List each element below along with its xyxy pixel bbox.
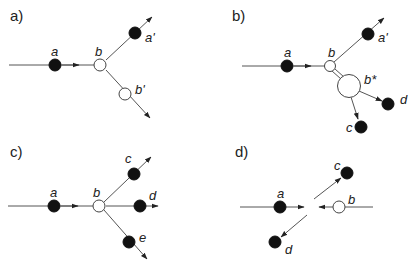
panel-b-label: b) [232, 7, 245, 24]
particle-c [355, 121, 367, 133]
label-b: b [348, 192, 355, 207]
outgoing-track-d [281, 215, 307, 237]
label-a: a [277, 186, 284, 201]
label-a: a [284, 45, 291, 60]
particle-b [333, 201, 345, 213]
panel-d: d) a b c d [235, 143, 373, 257]
label-b: b [328, 45, 335, 60]
label-c: c [346, 120, 353, 135]
label-b-prime: b' [135, 82, 145, 97]
label-b: b [93, 185, 100, 200]
particle-a [274, 201, 286, 213]
particle-a [49, 59, 61, 71]
particle-b-prime [119, 88, 131, 100]
panel-c: c) a b c d e [8, 143, 158, 259]
outgoing-track-a-prime [334, 18, 384, 62]
particle-a-prime [362, 28, 374, 40]
outgoing-track-c [351, 97, 358, 119]
label-c: c [125, 151, 132, 166]
particle-b [94, 59, 106, 71]
panel-a: a) a b a' b' [9, 7, 155, 118]
particle-d [269, 236, 281, 248]
outgoing-track-c [314, 178, 341, 199]
label-d: d [400, 92, 408, 107]
particle-a [281, 60, 293, 72]
label-e: e [139, 230, 146, 245]
outgoing-track-d [359, 91, 382, 101]
label-a: a [50, 185, 57, 200]
label-c: c [334, 158, 341, 173]
label-d: d [285, 242, 293, 257]
label-b: b [95, 44, 102, 59]
particle-d [382, 98, 394, 110]
particle-d [134, 200, 146, 212]
label-a-prime: a' [145, 30, 155, 45]
panel-a-label: a) [10, 7, 23, 24]
particle-e [123, 236, 135, 248]
particle-c [341, 167, 353, 179]
particle-a [48, 200, 60, 212]
particle-b-star [338, 75, 361, 98]
particle-b [93, 200, 105, 212]
label-a: a [51, 44, 58, 59]
connector-b-bstar-2 [335, 69, 344, 77]
panel-d-label: d) [235, 143, 248, 160]
particle-a-prime [129, 27, 141, 39]
panel-b: b) a b a' b* d c [232, 7, 408, 135]
label-b-star: b* [364, 72, 377, 87]
connector-b-bstar-1 [332, 71, 341, 79]
label-a-prime: a' [378, 30, 388, 45]
particle-b [325, 61, 336, 72]
panel-c-label: c) [10, 143, 23, 160]
scattering-diagrams: a) a b a' b' b) a b a' b* d c [0, 0, 411, 269]
particle-c [128, 168, 140, 180]
label-d: d [149, 188, 157, 203]
